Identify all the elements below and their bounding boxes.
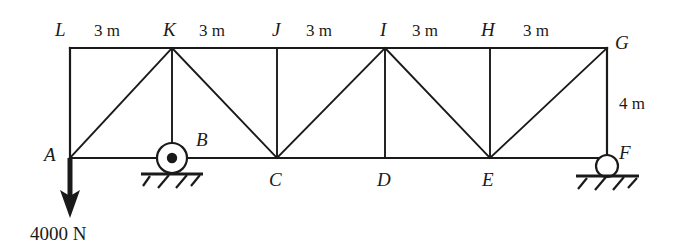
member-diagonal-A-K <box>70 48 172 158</box>
dimension-label-span-4: 3 m <box>412 22 438 39</box>
node-label-J: J <box>272 20 280 39</box>
node-label-K: K <box>163 20 176 39</box>
node-label-L: L <box>55 20 66 39</box>
member-diagonal-K-C <box>172 48 277 158</box>
member-diagonal-E-G <box>490 48 607 158</box>
load-label-4000N: 4000 N <box>30 224 86 243</box>
node-label-I: I <box>380 20 386 39</box>
load-arrow-A <box>60 158 80 218</box>
node-label-B: B <box>196 130 208 149</box>
dimension-label-span-5: 3 m <box>523 22 549 39</box>
pin-support-B <box>141 143 203 188</box>
dimension-label-span-2: 3 m <box>199 22 225 39</box>
member-diagonal-I-E <box>385 48 490 158</box>
dimension-label-height: 4 m <box>619 95 645 112</box>
node-label-A: A <box>44 145 56 164</box>
truss-members <box>70 48 607 158</box>
node-label-D: D <box>377 170 391 189</box>
roller-support-circle <box>596 155 618 177</box>
truss-diagram: L K J I H G A B C D E F 3 m 3 m 3 m 3 m … <box>0 0 679 246</box>
dimension-label-span-1: 3 m <box>94 22 120 39</box>
node-label-C: C <box>269 170 282 189</box>
member-diagonal-C-I <box>277 48 385 158</box>
dimension-label-span-3: 3 m <box>306 22 332 39</box>
pin-support-dot <box>167 153 177 163</box>
roller-support-hatching <box>578 177 637 190</box>
node-label-G: G <box>615 33 629 52</box>
node-label-F: F <box>619 143 631 162</box>
pin-support-hatching <box>143 175 200 188</box>
node-label-E: E <box>482 170 494 189</box>
node-label-H: H <box>481 20 495 39</box>
